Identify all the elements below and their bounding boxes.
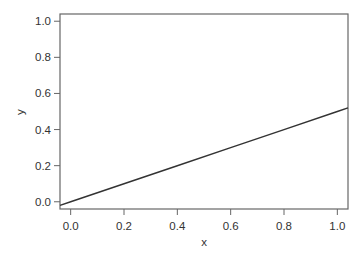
x-axis-ticks: 0.00.20.40.60.81.0 bbox=[63, 209, 346, 232]
plot-border bbox=[60, 14, 348, 209]
series-line bbox=[60, 108, 348, 205]
y-tick-label: 0.2 bbox=[35, 160, 51, 172]
line-chart: 0.00.20.40.60.81.0 0.00.20.40.60.81.0 x … bbox=[0, 0, 364, 256]
plot-frame bbox=[60, 14, 348, 209]
y-tick-label: 0.6 bbox=[35, 87, 51, 99]
y-tick-label: 0.0 bbox=[35, 196, 51, 208]
data-series bbox=[60, 108, 348, 205]
x-tick-label: 0.6 bbox=[223, 220, 239, 232]
y-tick-label: 0.4 bbox=[35, 124, 52, 136]
y-tick-label: 1.0 bbox=[35, 15, 51, 27]
x-tick-label: 1.0 bbox=[329, 220, 345, 232]
x-tick-label: 0.2 bbox=[116, 220, 132, 232]
y-axis-label: y bbox=[14, 109, 26, 115]
x-tick-label: 0.4 bbox=[169, 220, 186, 232]
x-tick-label: 0.8 bbox=[276, 220, 292, 232]
x-tick-label: 0.0 bbox=[63, 220, 79, 232]
y-tick-label: 0.8 bbox=[35, 51, 51, 63]
x-axis-label: x bbox=[201, 236, 207, 248]
y-axis-ticks: 0.00.20.40.60.81.0 bbox=[35, 15, 60, 208]
